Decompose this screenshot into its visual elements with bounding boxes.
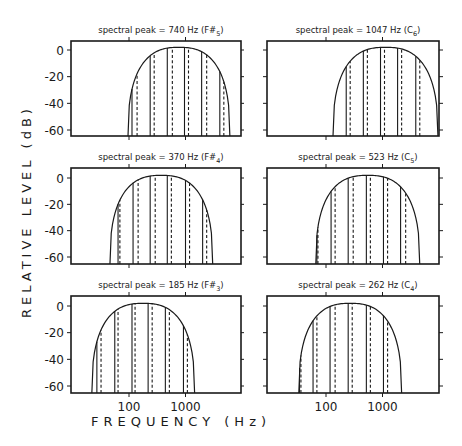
- spectral-envelope: [92, 303, 195, 393]
- y-tick-label: -40: [44, 97, 64, 111]
- spectral-envelope: [299, 303, 402, 393]
- panel-title: spectral peak = 1047 Hz (C6): [296, 25, 421, 38]
- spectral-envelope: [333, 47, 438, 136]
- plot-frame: [267, 296, 439, 393]
- y-tick-label: -20: [44, 198, 64, 212]
- panel-title: spectral peak = 740 Hz (F#5): [98, 25, 223, 38]
- plot-frame: [71, 168, 241, 264]
- plot-frame: [267, 41, 439, 136]
- y-tick-label: -60: [44, 380, 64, 394]
- spectral-envelope-figure: spectral peak = 740 Hz (F#5)0-20-40-60sp…: [0, 0, 462, 446]
- panel-p740: spectral peak = 740 Hz (F#5)0-20-40-60: [44, 25, 244, 140]
- y-tick-label: -20: [44, 326, 64, 340]
- y-tick-label: -60: [44, 251, 64, 265]
- y-tick-label: 0: [56, 172, 64, 186]
- y-tick-label: 0: [56, 44, 64, 58]
- y-tick-label: -40: [44, 224, 64, 238]
- panel-title: spectral peak = 523 Hz (C5): [298, 152, 417, 165]
- y-tick-label: -40: [44, 353, 64, 367]
- plot-frame: [71, 41, 241, 136]
- spectral-envelope: [110, 175, 213, 264]
- panel-p1047: spectral peak = 1047 Hz (C6): [263, 25, 443, 140]
- x-axis-label: FREQUENCY (Hz): [91, 414, 271, 429]
- panel-p262: spectral peak = 262 Hz (C4)1001000: [263, 280, 443, 414]
- panel-p370: spectral peak = 370 Hz (F#4)0-20-40-60: [44, 152, 244, 268]
- panel-title: spectral peak = 370 Hz (F#4): [98, 152, 223, 165]
- panel-p523: spectral peak = 523 Hz (C5): [263, 152, 443, 268]
- y-tick-label: -20: [44, 70, 64, 84]
- panels-group: spectral peak = 740 Hz (F#5)0-20-40-60sp…: [44, 25, 443, 414]
- spectral-envelope: [128, 47, 230, 136]
- x-tick-label: 1000: [170, 400, 201, 414]
- panel-title: spectral peak = 262 Hz (C4): [298, 280, 417, 293]
- x-tick-label: 1000: [367, 400, 398, 414]
- x-tick-label: 100: [315, 400, 338, 414]
- y-axis-label: RELATIVE LEVEL (dB): [19, 105, 34, 318]
- panel-p185: spectral peak = 185 Hz (F#3)0-20-40-6010…: [44, 280, 244, 414]
- panel-title: spectral peak = 185 Hz (F#3): [98, 280, 223, 293]
- y-tick-label: 0: [56, 300, 64, 314]
- x-tick-label: 100: [118, 400, 141, 414]
- y-tick-label: -60: [44, 124, 64, 138]
